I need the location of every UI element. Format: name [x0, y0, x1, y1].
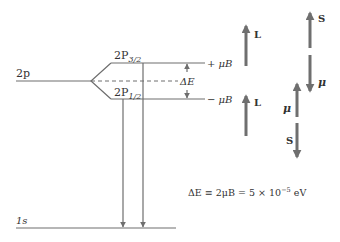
equation-delta-e: ΔE ≡ 2μB = 5 × 10−5 eV — [188, 186, 306, 198]
label-l-lower: L — [254, 97, 261, 108]
label-mu-upper: μ — [318, 76, 326, 89]
label-2p1-2: 2P1/2 — [114, 86, 141, 101]
level-1s: 1s — [16, 215, 176, 228]
label-plus-mu-b: + μB — [207, 58, 232, 69]
fine-structure-diagram: 2p 2P3/2 2P1/2 + μB − μB ΔE 1s L S μ L μ — [0, 0, 340, 242]
label-1s: 1s — [16, 215, 28, 226]
label-minus-mu-b: − μB — [207, 94, 232, 105]
label-2p: 2p — [16, 67, 30, 80]
label-s-lower: S — [286, 135, 293, 146]
label-2p3-2: 2P3/2 — [114, 49, 141, 64]
label-s-upper: S — [318, 13, 325, 24]
label-mu-lower: μ — [283, 102, 291, 115]
label-delta-e: ΔE — [179, 76, 195, 87]
level-2p: 2p — [16, 67, 91, 81]
label-l-upper: L — [254, 29, 261, 40]
